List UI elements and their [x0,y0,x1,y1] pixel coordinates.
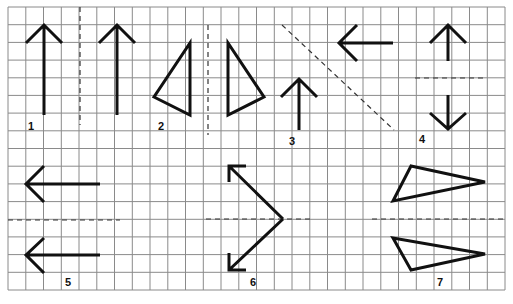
triangle-shape [228,43,264,115]
panel-3: 3 [281,25,394,147]
triangle-shape [154,43,190,115]
reflection-worksheet: 1 2 3 4 5 6 7 [0,0,513,304]
panel-label: 7 [437,276,443,288]
diagram-canvas: 1 2 3 4 5 6 7 [0,0,513,304]
panel-label: 3 [289,135,295,147]
left-arrow-icon [339,25,393,61]
panel-4: 4 [415,25,485,145]
up-arrow-icon [99,25,135,115]
panel-label: 5 [65,276,71,288]
up-arrow-icon [281,79,317,130]
left-arrow-icon [26,166,100,202]
panel-label: 6 [250,276,256,288]
panel-label: 2 [158,120,164,132]
triangle-shape [393,238,485,270]
up-arrow-icon [26,25,62,115]
grid [8,7,505,290]
panel-label: 1 [28,120,34,132]
panel-label: 4 [419,133,426,145]
up-arrow-icon [430,25,466,61]
panel-2: 2 [154,25,264,135]
left-arrow-icon [26,238,100,273]
down-arrow-icon [430,95,466,129]
